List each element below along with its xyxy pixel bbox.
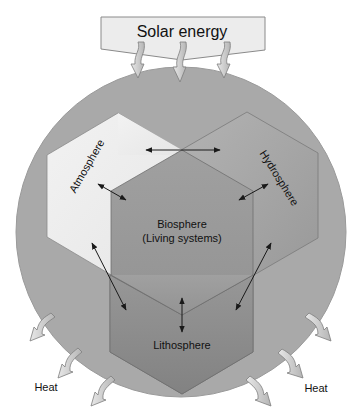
heat-right-label: Heat: [304, 382, 327, 394]
solar-energy-label: Solar energy: [137, 23, 228, 40]
heat-arrow-icon: [246, 376, 271, 406]
earth-systems-diagram: Solar energy Atmosphere Hydrosphere Bios…: [0, 0, 358, 418]
heat-arrow-icon: [91, 376, 115, 406]
heat-left-label: Heat: [34, 381, 57, 393]
lithosphere-label: Lithosphere: [153, 339, 211, 351]
biosphere-sublabel: (Living systems): [142, 232, 221, 244]
biosphere-label: Biosphere: [157, 218, 207, 230]
